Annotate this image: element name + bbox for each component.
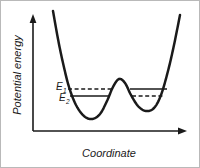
energy-level-label-e2: E	[59, 92, 66, 103]
arrow-up-icon	[30, 14, 37, 23]
energy-level-label-e2-subscript: 2	[65, 98, 70, 105]
energy-level-label-e1: E	[56, 81, 63, 92]
potential-energy-figure: E 1 E 2 Potential energy Coordinate	[0, 0, 200, 168]
y-axis-title: Potential energy	[11, 34, 23, 115]
axes-group	[30, 14, 187, 134]
x-axis-title: Coordinate	[82, 147, 136, 159]
curve-group	[53, 11, 180, 119]
arrow-right-icon	[178, 128, 187, 135]
potential-energy-curve	[53, 11, 180, 119]
figure-canvas: E 1 E 2 Potential energy Coordinate	[1, 1, 199, 167]
energy-levels-group	[68, 89, 167, 96]
